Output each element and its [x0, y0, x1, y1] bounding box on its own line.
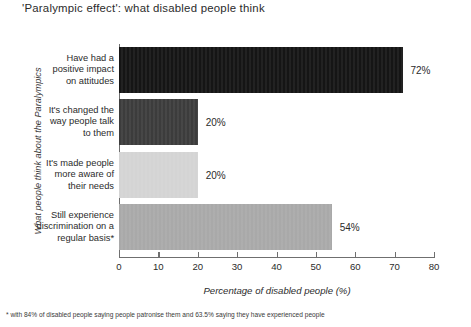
- category-label-line: more aware of: [2, 169, 114, 181]
- category-label-line: Have had a: [2, 53, 114, 65]
- category-label: It's made peoplemore aware oftheir needs: [2, 158, 114, 193]
- chart-title: 'Paralympic effect': what disabled peopl…: [22, 2, 265, 14]
- category-label-line: to them: [2, 128, 114, 140]
- category-label-line: positive impact: [2, 64, 114, 76]
- category-label-line: their needs: [2, 181, 114, 193]
- category-label-line: discrimination on a: [2, 221, 114, 233]
- page-corner-edge: [0, 0, 27, 295]
- category-label-line: It's changed the: [2, 105, 114, 117]
- category-label-line: It's made people: [2, 158, 114, 170]
- bar-value-label: 20%: [206, 170, 226, 181]
- x-axis-title: Percentage of disabled people (%): [119, 285, 435, 296]
- category-label: Have had apositive impacton attitudes: [2, 53, 114, 88]
- bar-row: 54%: [119, 204, 434, 250]
- bar-value-label: 72%: [411, 65, 431, 76]
- category-label-line: regular basis*: [2, 233, 114, 245]
- bar: [119, 47, 403, 93]
- x-tick-mark: [158, 252, 159, 258]
- x-tick-label: 50: [311, 261, 322, 272]
- x-tick-label: 70: [389, 261, 400, 272]
- bar: [119, 99, 198, 145]
- chart-footnote: * with 84% of disabled people saying peo…: [6, 311, 325, 318]
- plot-area: 72%20%20%54%: [119, 44, 434, 256]
- x-tick-mark: [316, 252, 317, 258]
- x-tick-label: 10: [153, 261, 164, 272]
- bar: [119, 204, 332, 250]
- bar-value-label: 20%: [206, 117, 226, 128]
- bar-row: 72%: [119, 47, 434, 93]
- x-tick-mark: [277, 252, 278, 258]
- category-label-line: Still experience: [2, 210, 114, 222]
- x-tick-mark: [119, 252, 120, 258]
- category-label-line: way people talk: [2, 116, 114, 128]
- x-tick-mark: [198, 252, 199, 258]
- x-tick-label: 30: [232, 261, 243, 272]
- x-tick-label: 80: [429, 261, 440, 272]
- bar-value-label: 54%: [340, 222, 360, 233]
- bar-row: 20%: [119, 99, 434, 145]
- x-tick-mark: [355, 252, 356, 258]
- x-tick-label: 40: [271, 261, 282, 272]
- x-tick-label: 0: [116, 261, 121, 272]
- x-tick-mark: [434, 252, 435, 258]
- category-label: Still experiencediscrimination on aregul…: [2, 210, 114, 245]
- x-tick-label: 20: [192, 261, 203, 272]
- bar: [119, 152, 198, 198]
- x-tick-label: 60: [350, 261, 361, 272]
- bar-row: 20%: [119, 152, 434, 198]
- category-label-line: on attitudes: [2, 76, 114, 88]
- x-tick-mark: [237, 252, 238, 258]
- category-label: It's changed theway people talkto them: [2, 105, 114, 140]
- x-tick-mark: [395, 252, 396, 258]
